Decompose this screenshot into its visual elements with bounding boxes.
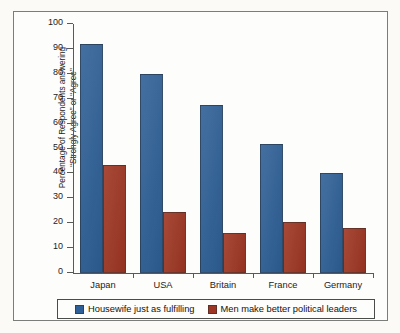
y-tick: 50 <box>67 148 73 149</box>
bar <box>200 105 223 273</box>
x-axis-line <box>73 273 373 274</box>
bar <box>80 44 103 273</box>
bar <box>103 165 126 273</box>
bar <box>283 222 306 273</box>
y-tick: 70 <box>67 98 73 99</box>
x-tick <box>313 273 314 278</box>
bar <box>140 74 163 273</box>
y-tick-label: 20 <box>53 216 63 226</box>
legend-entry: Housewife just as fulfilling <box>75 304 194 314</box>
x-tick <box>193 273 194 278</box>
y-tick-label: 50 <box>53 142 63 152</box>
y-tick: 10 <box>67 247 73 248</box>
bar <box>320 173 343 273</box>
y-tick: 20 <box>67 222 73 223</box>
x-axis-label-germany: Germany <box>313 280 373 290</box>
x-axis-label-france: France <box>253 280 313 290</box>
y-tick-label: 0 <box>58 266 63 276</box>
x-tick <box>133 273 134 278</box>
y-tick: 0 <box>67 272 73 273</box>
y-tick-label: 40 <box>53 166 63 176</box>
bar <box>343 228 366 273</box>
y-tick: 90 <box>67 48 73 49</box>
figure-frame: Percentage of Respondents answering “Str… <box>13 11 388 321</box>
x-tick <box>373 273 374 278</box>
red-swatch <box>208 305 217 314</box>
y-tick: 100 <box>67 23 73 24</box>
bar <box>223 233 246 273</box>
x-tick <box>253 273 254 278</box>
legend-label: Housewife just as fulfilling <box>88 304 194 314</box>
y-tick-label: 100 <box>48 17 63 27</box>
legend-entry: Men make better political leaders <box>208 304 357 314</box>
y-tick: 40 <box>67 172 73 173</box>
y-axis-line <box>73 24 74 273</box>
y-tick: 30 <box>67 197 73 198</box>
y-tick-label: 90 <box>53 42 63 52</box>
y-tick-label: 80 <box>53 67 63 77</box>
chart-legend: Housewife just as fulfillingMen make bet… <box>57 299 375 319</box>
x-axis-label-japan: Japan <box>73 280 133 290</box>
x-axis-label-britain: Britain <box>193 280 253 290</box>
x-axis-label-usa: USA <box>133 280 193 290</box>
y-tick-label: 70 <box>53 92 63 102</box>
y-tick-label: 30 <box>53 191 63 201</box>
y-tick-label: 10 <box>53 241 63 251</box>
plot-area: 0102030405060708090100 JapanUSABritainFr… <box>73 24 373 273</box>
y-tick-label: 60 <box>53 117 63 127</box>
y-tick: 60 <box>67 123 73 124</box>
bar <box>260 144 283 273</box>
bar <box>163 212 186 273</box>
legend-label: Men make better political leaders <box>221 304 357 314</box>
y-tick: 80 <box>67 73 73 74</box>
blue-swatch <box>75 305 84 314</box>
